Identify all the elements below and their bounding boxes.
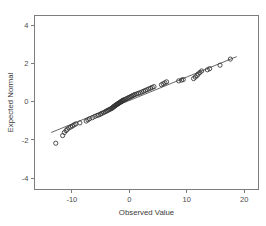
x-tick-label: 20 [240,195,248,204]
y-tick-label: -2 [22,136,29,145]
y-tick-label: -4 [22,174,29,183]
normal-qq-plot: 420-2-4 -1001020 Observed Value Expected… [0,0,266,226]
y-tick-label: 2 [24,59,28,68]
y-tick-label: 0 [24,97,28,106]
data-point-marker [78,121,82,125]
x-tick-label: -10 [66,195,77,204]
qq-plot-container: 420-2-4 -1001020 Observed Value Expected… [0,0,266,226]
y-axis-title: Expected Normal [6,72,15,132]
x-axis-title: Observed Value [119,208,174,217]
y-tick-label: 4 [24,21,28,30]
scatter-points [54,57,233,145]
data-point-marker [54,141,58,145]
x-axis: -1001020 [66,190,248,204]
x-tick-label: 0 [127,195,131,204]
y-axis: 420-2-4 [22,21,35,183]
plot-frame [35,16,259,190]
plot-frame-border [35,16,259,190]
x-tick-label: 10 [183,195,191,204]
